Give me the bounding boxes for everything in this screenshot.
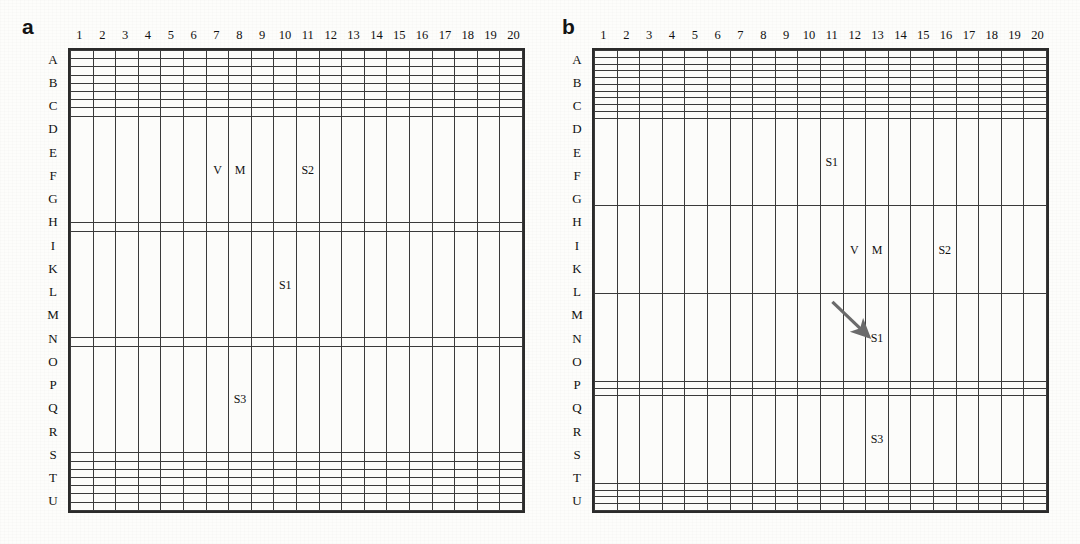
grid-cell-E11[interactable] — [820, 78, 843, 85]
grid-cell-R7[interactable] — [730, 483, 753, 490]
grid-cell-D8[interactable] — [753, 71, 776, 78]
grid-cell-M14[interactable] — [364, 338, 387, 346]
grid-cell-U16[interactable] — [409, 502, 432, 510]
grid-cell-H19[interactable] — [477, 108, 500, 116]
grid-cell-F19[interactable] — [477, 92, 500, 100]
grid-cell-S19[interactable] — [477, 486, 500, 494]
grid-cell-R20[interactable] — [500, 477, 523, 485]
grid-cell-G18[interactable] — [979, 91, 1002, 98]
grid-cell-O6[interactable] — [183, 453, 206, 461]
grid-cell-E13[interactable] — [866, 78, 889, 85]
grid-cell-O7[interactable] — [730, 382, 753, 389]
grid-cell-I14[interactable] — [364, 116, 387, 223]
grid-cell-C20[interactable] — [500, 67, 523, 75]
grid-cell-R2[interactable] — [617, 483, 640, 490]
grid-cell-C9[interactable] — [251, 67, 274, 75]
grid-cell-S20[interactable] — [500, 486, 523, 494]
grid-cell-G20[interactable] — [500, 100, 523, 108]
grid-cell-B4[interactable] — [138, 59, 161, 67]
grid-cell-Q11[interactable] — [820, 395, 843, 483]
grid-cell-N6[interactable] — [183, 346, 206, 453]
grid-cell-L1[interactable] — [595, 118, 618, 206]
grid-cell-N15[interactable] — [387, 346, 410, 453]
grid-cell-P20[interactable] — [1024, 389, 1047, 396]
grid-cell-I15[interactable] — [387, 116, 410, 223]
grid-cell-H3[interactable] — [116, 108, 139, 116]
grid-cell-T16[interactable] — [409, 494, 432, 502]
grid-cell-T15[interactable] — [911, 497, 934, 504]
grid-cell-P5[interactable] — [161, 461, 184, 469]
grid-cell-B18[interactable] — [455, 59, 478, 67]
grid-cell-H15[interactable] — [387, 108, 410, 116]
grid-cell-marker-I8[interactable]: M — [229, 116, 252, 223]
grid-cell-F13[interactable] — [342, 92, 365, 100]
grid-cell-M3[interactable] — [116, 338, 139, 346]
grid-cell-H1[interactable] — [595, 98, 618, 105]
grid-cell-Q10[interactable] — [798, 395, 821, 483]
grid-cell-U20[interactable] — [500, 502, 523, 510]
grid-cell-F20[interactable] — [500, 92, 523, 100]
grid-cell-O3[interactable] — [640, 382, 663, 389]
grid-cell-I3[interactable] — [640, 105, 663, 112]
grid-cell-F2[interactable] — [93, 92, 116, 100]
grid-cell-E9[interactable] — [775, 78, 798, 85]
grid-cell-A16[interactable] — [409, 51, 432, 59]
grid-cell-C18[interactable] — [455, 67, 478, 75]
grid-cell-T8[interactable] — [229, 494, 252, 502]
grid-cell-G16[interactable] — [933, 91, 956, 98]
grid-cell-D4[interactable] — [138, 75, 161, 83]
grid-cell-R8[interactable] — [753, 483, 776, 490]
grid-cell-N2[interactable] — [93, 346, 116, 453]
grid-cell-P15[interactable] — [911, 389, 934, 396]
grid-cell-P16[interactable] — [409, 461, 432, 469]
grid-cell-G11[interactable] — [820, 91, 843, 98]
grid-cell-R17[interactable] — [956, 483, 979, 490]
grid-cell-U13[interactable] — [342, 502, 365, 510]
grid-cell-R11[interactable] — [820, 483, 843, 490]
grid-cell-K3[interactable] — [640, 111, 663, 118]
grid-cell-B10[interactable] — [274, 59, 297, 67]
grid-cell-C20[interactable] — [1024, 64, 1047, 71]
grid-cell-B9[interactable] — [775, 57, 798, 64]
grid-cell-A9[interactable] — [251, 51, 274, 59]
grid-cell-L2[interactable] — [617, 118, 640, 206]
grid-cell-P8[interactable] — [229, 461, 252, 469]
grid-cell-M4[interactable] — [138, 338, 161, 346]
grid-cell-O9[interactable] — [775, 382, 798, 389]
grid-cell-G16[interactable] — [409, 100, 432, 108]
grid-cell-P10[interactable] — [274, 461, 297, 469]
grid-cell-marker-I7[interactable]: V — [206, 116, 229, 223]
grid-cell-E18[interactable] — [979, 78, 1002, 85]
grid-cell-Q2[interactable] — [93, 469, 116, 477]
grid-cell-S10[interactable] — [798, 490, 821, 497]
grid-cell-U9[interactable] — [775, 504, 798, 511]
grid-cell-E2[interactable] — [93, 83, 116, 91]
grid-cell-L18[interactable] — [455, 231, 478, 338]
grid-cell-R14[interactable] — [888, 483, 911, 490]
grid-cell-F9[interactable] — [251, 92, 274, 100]
grid-cell-H14[interactable] — [888, 98, 911, 105]
grid-cell-T17[interactable] — [432, 494, 455, 502]
grid-cell-F1[interactable] — [595, 84, 618, 91]
grid-cell-O3[interactable] — [116, 453, 139, 461]
grid-cell-U14[interactable] — [364, 502, 387, 510]
grid-cell-S4[interactable] — [138, 486, 161, 494]
grid-cell-B13[interactable] — [342, 59, 365, 67]
grid-cell-G18[interactable] — [455, 100, 478, 108]
grid-cell-K16[interactable] — [933, 111, 956, 118]
grid-cell-B2[interactable] — [93, 59, 116, 67]
grid-cell-A13[interactable] — [342, 51, 365, 59]
grid-cell-K18[interactable] — [455, 223, 478, 231]
grid-cell-S14[interactable] — [888, 490, 911, 497]
grid-cell-O13[interactable] — [866, 382, 889, 389]
grid-cell-M4[interactable] — [662, 206, 685, 294]
grid-cell-I2[interactable] — [93, 116, 116, 223]
grid-cell-S2[interactable] — [617, 490, 640, 497]
grid-cell-K17[interactable] — [956, 111, 979, 118]
grid-cell-P20[interactable] — [500, 461, 523, 469]
grid-cell-H4[interactable] — [662, 98, 685, 105]
grid-cell-K12[interactable] — [319, 223, 342, 231]
grid-cell-T3[interactable] — [116, 494, 139, 502]
grid-cell-N5[interactable] — [161, 346, 184, 453]
grid-cell-P19[interactable] — [1001, 389, 1024, 396]
